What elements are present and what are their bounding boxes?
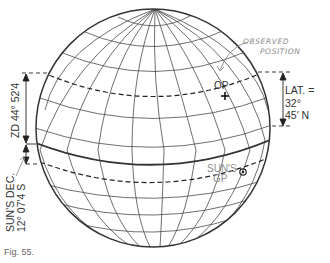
- latitude-label: LAT. = 32° 45′ N: [285, 84, 314, 122]
- meridians: [40, 9, 268, 247]
- observed-position-line-2: POSITION: [243, 47, 301, 57]
- latitude-label-line-1: LAT. =: [285, 84, 314, 97]
- observed-position-line-1: OBSERVED: [243, 37, 301, 47]
- figure-caption: Fig. 55.: [4, 248, 34, 257]
- observer-latitude-parallel: [42, 70, 268, 97]
- observed-position-label: OBSERVED POSITION: [243, 37, 301, 57]
- zenith-distance-label: ZD 44° 52′4: [10, 83, 21, 138]
- equator: [36, 140, 270, 165]
- sun-declination-line-2: 12° 07′4 S: [16, 173, 27, 232]
- parallels: [35, 16, 272, 232]
- latitude-label-line-3: 45′ N: [285, 109, 314, 122]
- latitude-label-line-2: 32°: [285, 97, 314, 110]
- sun-declination-label: SUN'S DEC. 12° 07′4 S: [5, 173, 27, 232]
- sun-gp-label-line-2: GP: [207, 174, 237, 184]
- sun-gp-label: SUN'S GP: [207, 164, 237, 184]
- op-label: OP: [214, 81, 228, 91]
